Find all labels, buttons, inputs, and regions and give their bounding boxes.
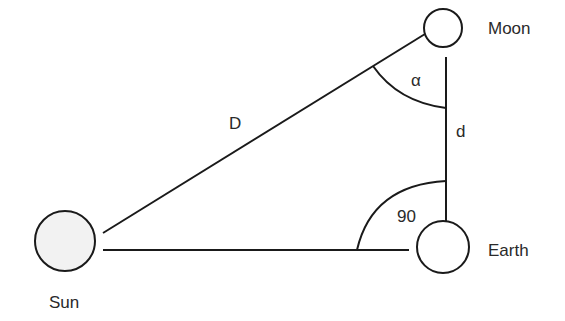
sun-label: Sun (49, 293, 79, 312)
moon-label: Moon (488, 19, 531, 38)
sun-moon-line (103, 34, 425, 233)
right-angle-label: 90 (397, 207, 416, 226)
sun-circle (35, 211, 95, 271)
sun-earth-moon-diagram: Sun Moon Earth D d α 90 (0, 0, 565, 321)
moon-circle (424, 9, 462, 47)
earth-circle (417, 221, 469, 273)
sun-moon-distance-label: D (229, 114, 241, 133)
alpha-angle-arc (373, 66, 446, 108)
earth-moon-distance-label: d (456, 122, 465, 141)
alpha-angle-label: α (411, 71, 421, 90)
earth-label: Earth (488, 241, 529, 260)
